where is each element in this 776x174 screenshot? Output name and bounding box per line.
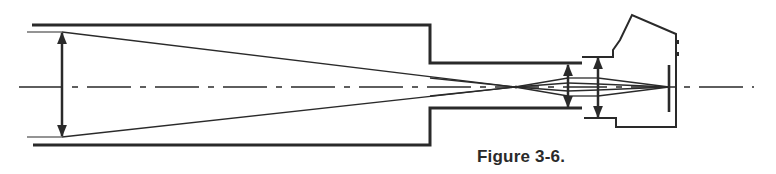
camera-body bbox=[582, 15, 676, 127]
light-rays bbox=[62, 32, 669, 137]
optical-diagram bbox=[0, 0, 776, 174]
figure-caption: Figure 3-6. bbox=[477, 147, 565, 167]
objective-guides bbox=[27, 32, 62, 137]
focal-point bbox=[514, 85, 517, 88]
